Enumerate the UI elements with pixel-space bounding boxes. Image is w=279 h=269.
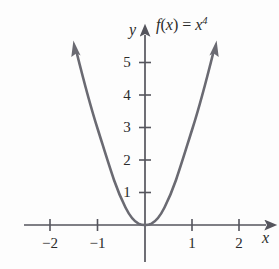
y-tick-label-1: 1 [120, 185, 134, 200]
function-graph-figure: 5 4 3 2 1 −2 −1 1 2 y x f(x)=x4 [0, 0, 279, 269]
y-tick-label-2: 2 [120, 153, 134, 168]
y-tick-label-4: 4 [120, 88, 134, 103]
function-exponent: 4 [202, 15, 207, 26]
x-axis-label: x [262, 230, 269, 246]
y-tick-label-5: 5 [120, 55, 134, 70]
y-axis-label: y [129, 22, 136, 38]
x-tick-label-minus1: −1 [85, 236, 111, 251]
x-tick-label-2: 2 [229, 236, 249, 251]
function-label: f(x)=x4 [156, 16, 208, 33]
function-equals-sign: = [182, 16, 191, 33]
x-tick-label-minus2: −2 [37, 236, 63, 251]
function-argument: x [166, 16, 173, 33]
plot-canvas [0, 0, 279, 269]
function-close-paren: ) [173, 16, 178, 33]
y-tick-label-3: 3 [120, 120, 134, 135]
x-tick-label-1: 1 [182, 236, 202, 251]
